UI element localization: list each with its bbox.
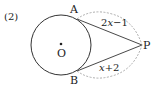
problem-number: (2): [4, 11, 18, 22]
tangent-diagram: (2) O A B P 2x−1 x+2: [0, 0, 167, 88]
label-PB-length: x+2: [99, 62, 119, 73]
label-PA-length: 2x−1: [101, 17, 128, 28]
label-P: P: [143, 39, 151, 52]
center-dot: [60, 43, 63, 46]
label-A: A: [69, 3, 79, 16]
label-O: O: [57, 47, 66, 60]
label-B: B: [70, 74, 78, 87]
